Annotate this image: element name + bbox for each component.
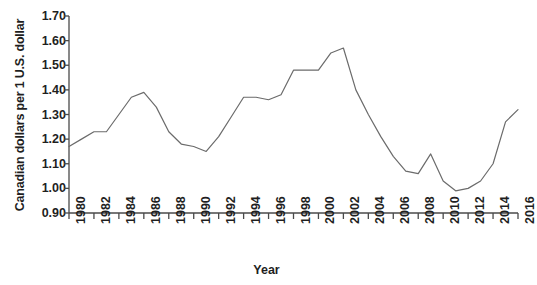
x-tick-label: 2004 xyxy=(373,196,387,224)
x-tick-label: 1986 xyxy=(149,196,163,224)
x-tick-label: 1984 xyxy=(124,196,138,224)
x-tick-label: 1992 xyxy=(224,196,238,224)
x-tick-label: 1990 xyxy=(199,196,213,224)
x-tick-label: 1988 xyxy=(174,196,188,224)
x-axis-title: Year xyxy=(0,263,533,277)
x-tick-label: 1994 xyxy=(249,196,263,224)
x-tick-label: 1996 xyxy=(274,196,288,224)
x-tick-label: 2006 xyxy=(398,196,412,224)
x-tick-label: 1982 xyxy=(99,196,113,224)
x-tick-label: 2016 xyxy=(523,196,537,224)
x-tick-label: 2002 xyxy=(348,196,362,224)
x-tick-label: 2000 xyxy=(323,196,337,224)
x-tick-label: 1998 xyxy=(299,196,313,224)
x-tick-label: 2014 xyxy=(498,196,512,224)
x-tick-label: 2008 xyxy=(423,196,437,224)
x-tick-label: 2010 xyxy=(448,196,462,224)
x-tick-label: 1980 xyxy=(74,196,88,224)
x-tick-label: 2012 xyxy=(473,196,487,224)
